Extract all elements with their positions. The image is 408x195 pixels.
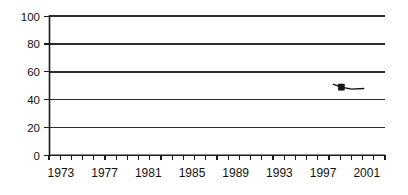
y-axis: 100 80 60 40 20 0 [21, 11, 50, 162]
x-tick-label-1973: 1973 [48, 166, 75, 180]
y-tick-label-100: 100 [21, 11, 40, 23]
x-tick-label-1981: 1981 [135, 166, 162, 180]
x-tick-label-1985: 1985 [179, 166, 206, 180]
x-tick-label-1977: 1977 [91, 166, 118, 180]
x-tick-label-1989: 1989 [222, 166, 249, 180]
grid-lines [49, 16, 385, 127]
x-axis: 1973 1977 1981 1985 1989 1993 1997 2001 [48, 155, 385, 180]
x-tick-label-1993: 1993 [266, 166, 293, 180]
x-tick-label-1997: 1997 [310, 166, 337, 180]
y-tick-label-20: 20 [27, 122, 40, 134]
y-tick-label-0: 0 [34, 150, 40, 162]
y-tick-label-40: 40 [27, 94, 40, 106]
series-1-marker-point [338, 84, 344, 90]
series-1-markers [338, 84, 344, 90]
line-chart: 100 80 60 40 20 0 1973 1977 1981 1985 19… [0, 0, 408, 195]
data-series-group [333, 84, 363, 90]
y-tick-label-60: 60 [27, 66, 40, 78]
y-tick-label-80: 80 [27, 38, 40, 50]
chart-container: 100 80 60 40 20 0 1973 1977 1981 1985 19… [0, 0, 408, 195]
x-tick-label-2001: 2001 [353, 166, 380, 180]
